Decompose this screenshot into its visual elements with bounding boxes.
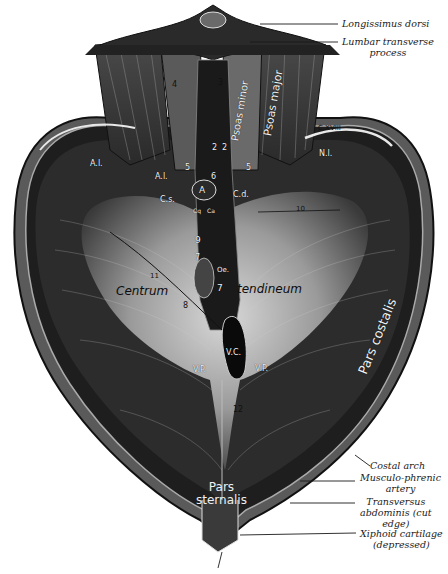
label-musculo-phrenic-artery: Musculo-phrenic artery [360,472,441,494]
label-al-inner: A.l. [155,172,168,181]
label-aorta-a: A [199,186,205,195]
label-3: 3 [218,78,223,87]
label-cq: Cq [193,206,201,215]
label-10: 10 [296,205,305,214]
label-line-2: abdominis (cut [360,507,432,518]
label-line-1: Lumbar transverse [342,36,434,47]
label-11: 11 [150,272,159,281]
label-2a: 2 [212,143,217,152]
label-6: 6 [211,172,216,181]
label-longissimus-dorsi: Longissimus dorsi [342,18,429,29]
label-al-left: A.l. [90,159,103,168]
label-2b: 2 [222,143,227,152]
label-nl: N.l. [319,149,332,158]
label-5b: 5 [246,163,251,172]
label-line-1: Xiphoid cartilage [360,528,443,539]
label-vp-left: V.P. [193,365,206,374]
label-costal-arch: Costal arch [370,460,425,471]
label-vc: V.C. [226,348,241,357]
label-4: 4 [172,80,177,89]
label-pars-sternalis: Pars sternalis [196,481,247,507]
leader-xiphoid [240,533,356,535]
label-line-1: Transversus [360,496,432,507]
label-xiphoid-cartilage: Xiphoid cartilage (depressed) [360,528,443,550]
label-line-2: process [342,47,434,58]
label-line-1: Musculo-phrenic [360,472,441,483]
label-9: 9 [195,236,201,245]
label-tendineum: tendineum [237,282,302,296]
label-7a: 7 [195,253,200,262]
label-line-2: sternalis [196,494,247,507]
label-7b: 7 [217,284,223,293]
label-vp-right: V.P. [255,364,268,373]
oesophagus [194,258,214,298]
label-12: 12 [233,405,243,414]
xiphoid [202,500,238,552]
label-5a: 5 [185,163,190,172]
label-centrum: Centrum [116,284,168,298]
label-cs: C.s. [160,195,175,204]
label-8: 8 [183,301,188,310]
diaphragm-illustration: Longissimus dorsi Lumbar transverse proc… [0,0,448,574]
label-line-2: (depressed) [360,539,443,550]
leader-costal-arch [355,455,370,466]
label-oe: Oe. [217,266,229,275]
label-ca: Ca [207,206,215,215]
label-cd: C.d. [233,190,249,199]
label-cxviii: C.XVIII [318,124,341,133]
label-line-2: artery [360,483,441,494]
label-lumbar-transverse-process: Lumbar transverse process [342,36,434,58]
label-transversus-abdominis: Transversus abdominis (cut edge) [360,496,432,529]
